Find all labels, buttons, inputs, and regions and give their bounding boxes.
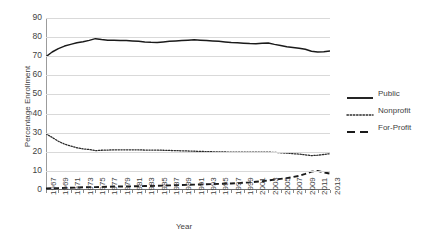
x-tick-label: 1987 — [173, 177, 181, 195]
gridline — [46, 75, 330, 76]
x-tick-mark — [268, 190, 269, 193]
gridline — [46, 94, 330, 95]
x-tick-mark — [244, 190, 245, 193]
y-tick-label: 30 — [24, 128, 42, 137]
gridline — [46, 114, 330, 115]
x-tick-label: 1971 — [74, 177, 82, 195]
legend-line-sample-icon — [346, 89, 374, 99]
x-tick-label: 2007 — [296, 177, 304, 195]
x-tick-mark — [132, 190, 133, 193]
series-line-public — [46, 39, 330, 57]
x-tick-mark — [305, 190, 306, 193]
x-tick-mark — [182, 190, 183, 193]
x-tick-label: 1981 — [136, 177, 144, 195]
y-tick-label: 90 — [24, 13, 42, 22]
x-tick-mark — [46, 190, 47, 193]
x-tick-mark — [231, 190, 232, 193]
gridline — [46, 152, 330, 153]
x-tick-label: 1997 — [235, 177, 243, 195]
legend-label: Nonprofit — [378, 106, 410, 115]
y-tick-label: 70 — [24, 51, 42, 60]
x-tick-label: 2011 — [321, 178, 329, 195]
x-tick-label: 2009 — [309, 177, 317, 195]
gridline — [46, 171, 330, 172]
x-tick-mark — [95, 190, 96, 193]
x-tick-label: 1983 — [148, 177, 156, 195]
legend-item-for-profit[interactable]: For-Profit — [346, 119, 434, 136]
x-tick-mark — [318, 190, 319, 193]
y-tick-label: 20 — [24, 147, 42, 156]
y-tick-label: 50 — [24, 89, 42, 98]
chart-title-cropped — [0, 0, 435, 8]
y-tick-label: 10 — [24, 166, 42, 175]
legend-item-nonprofit[interactable]: Nonprofit — [346, 102, 434, 119]
gridline — [46, 18, 330, 19]
x-tick-label: 2005 — [284, 177, 292, 195]
x-tick-mark — [145, 190, 146, 193]
x-tick-label: 1979 — [124, 177, 132, 195]
chart-legend: PublicNonprofitFor-Profit — [346, 85, 434, 136]
series-paths — [46, 18, 330, 190]
x-tick-label: 2001 — [259, 177, 267, 195]
x-tick-mark — [120, 190, 121, 193]
x-tick-label: 1991 — [198, 177, 206, 195]
x-tick-label: 1977 — [111, 177, 119, 195]
x-tick-label: 1989 — [185, 177, 193, 195]
x-tick-mark — [256, 190, 257, 193]
x-tick-label: 1985 — [161, 177, 169, 195]
x-tick-mark — [169, 190, 170, 193]
x-tick-label: 1995 — [222, 177, 230, 195]
y-tick-label: 40 — [24, 109, 42, 118]
y-tick-label: 0 — [24, 185, 42, 194]
x-tick-mark — [330, 190, 331, 193]
x-axis-ticks: 1967196919711973197519771979198119831985… — [46, 190, 330, 239]
gridline — [46, 56, 330, 57]
gridline — [46, 37, 330, 38]
x-tick-label: 1973 — [87, 177, 95, 195]
x-tick-mark — [108, 190, 109, 193]
y-axis-ticks: 0102030405060708090 — [22, 0, 42, 239]
legend-line-sample-icon — [346, 106, 374, 116]
x-tick-mark — [83, 190, 84, 193]
x-tick-label: 1975 — [99, 177, 107, 195]
y-tick-label: 80 — [24, 32, 42, 41]
x-tick-label: 2013 — [334, 177, 342, 195]
x-tick-label: 1999 — [247, 177, 255, 195]
x-tick-label: 1967 — [50, 177, 58, 195]
gridline — [46, 133, 330, 134]
enrollment-line-chart: Percentage Enrollment 010203040506070809… — [0, 0, 435, 239]
legend-item-public[interactable]: Public — [346, 85, 434, 102]
x-tick-mark — [219, 190, 220, 193]
x-tick-mark — [71, 190, 72, 193]
x-tick-label: 2003 — [272, 177, 280, 195]
legend-line-sample-icon — [346, 123, 374, 133]
plot-area — [46, 18, 330, 190]
y-tick-label: 60 — [24, 70, 42, 79]
legend-label: For-Profit — [378, 123, 411, 132]
x-tick-mark — [293, 190, 294, 193]
x-tick-mark — [157, 190, 158, 193]
x-tick-mark — [281, 190, 282, 193]
x-tick-label: 1993 — [210, 177, 218, 195]
legend-label: Public — [378, 89, 400, 98]
x-axis-title: Year — [176, 222, 192, 231]
x-tick-mark — [207, 190, 208, 193]
x-tick-mark — [194, 190, 195, 193]
x-tick-mark — [58, 190, 59, 193]
x-tick-label: 1969 — [62, 177, 70, 195]
